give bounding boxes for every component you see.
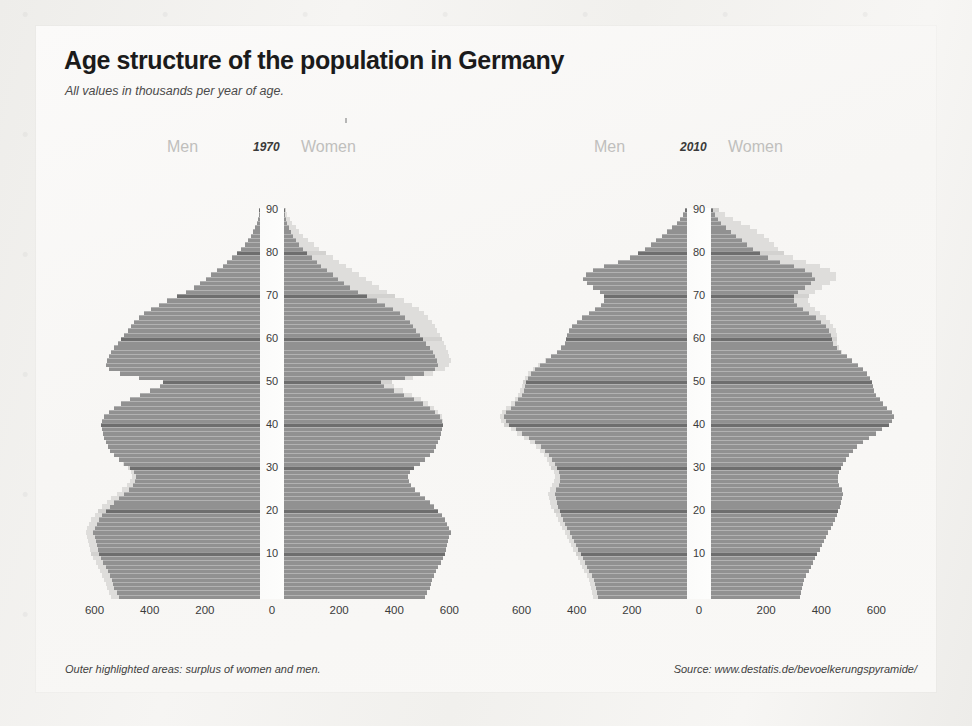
bar-men: [134, 470, 260, 474]
bar-women: [711, 303, 797, 307]
bar-men: [585, 560, 687, 564]
bar-women: [284, 487, 415, 491]
x-axis-tick-1: 400: [567, 604, 586, 616]
bar-women: [284, 345, 430, 349]
bar-women: [284, 229, 291, 233]
x-axis-tick-6: 600: [440, 604, 459, 616]
bar-men: [106, 440, 260, 444]
bar-women: [284, 500, 430, 504]
bar-men: [128, 328, 260, 332]
bar-women: [711, 311, 809, 315]
bar-women: [284, 462, 420, 466]
bar-women: [711, 242, 747, 246]
bar-women: [711, 328, 829, 332]
bar-women: [711, 345, 837, 349]
bar-men: [124, 333, 260, 337]
bar-women: [284, 595, 425, 599]
bar-men: [630, 255, 687, 259]
bar-women: [284, 358, 437, 362]
bar-women: [284, 492, 420, 496]
bar-men: [96, 539, 260, 543]
x-axis-tick-4: 200: [757, 604, 776, 616]
bar-men: [528, 376, 687, 380]
bar-women: [284, 586, 430, 590]
bar-men: [535, 367, 687, 371]
bar-men: [586, 272, 687, 276]
bar-women: [284, 212, 285, 216]
bar-men: [101, 556, 260, 560]
bar-women: [284, 440, 438, 444]
bar-men: [121, 337, 260, 341]
bar-men: [160, 384, 260, 388]
bar-men: [557, 350, 687, 354]
bar-women: [711, 393, 876, 397]
bar-women: [711, 535, 826, 539]
bar-women: [711, 556, 815, 560]
bar-men: [604, 294, 687, 298]
bar-men: [563, 517, 687, 521]
bar-women: [284, 397, 414, 401]
plot-area-1970: 102030405060708090: [55, 208, 485, 599]
bar-women: [284, 436, 440, 440]
bar-women: [284, 272, 333, 276]
bar-women: [284, 208, 285, 212]
bar-women: [284, 560, 441, 564]
y-axis-tick-80: 80: [687, 246, 711, 258]
bar-women: [284, 290, 358, 294]
bar-men: [524, 388, 687, 392]
bar-men: [618, 260, 687, 264]
bar-women: [284, 419, 442, 423]
bar-women: [711, 509, 838, 513]
bar-women: [711, 350, 841, 354]
bar-men: [232, 255, 260, 259]
bar-men: [518, 397, 687, 401]
bar-women: [284, 552, 445, 556]
bar-women: [284, 371, 424, 375]
bar-women: [284, 255, 312, 259]
bar-women: [711, 573, 806, 577]
bar-men: [604, 298, 687, 302]
bar-women: [711, 530, 828, 534]
bar-women: [711, 492, 843, 496]
bar-men: [526, 380, 687, 384]
bar-men: [515, 401, 687, 405]
bar-men: [167, 298, 260, 302]
bar-women: [284, 354, 435, 358]
bar-women: [711, 397, 880, 401]
bar-men: [129, 487, 260, 491]
bar-women: [711, 221, 721, 225]
bar-men: [551, 354, 687, 358]
bar-men: [578, 547, 687, 551]
bar-women: [284, 217, 286, 221]
bar-men: [121, 401, 260, 405]
bar-men: [576, 543, 687, 547]
bar-women: [284, 268, 327, 272]
y-axis-tick-70: 70: [687, 289, 711, 301]
bar-men: [102, 427, 260, 431]
bar-women: [284, 522, 447, 526]
bar-men: [595, 582, 687, 586]
bar-women: [284, 423, 443, 427]
bar-men: [200, 281, 260, 285]
bar-women: [711, 401, 883, 405]
bar-men: [593, 285, 687, 289]
bar-men: [159, 303, 260, 307]
y-axis-tick-80: 80: [260, 246, 284, 258]
bar-women: [711, 247, 753, 251]
bar-women: [711, 470, 839, 474]
bar-men: [139, 376, 260, 380]
bar-women: [284, 466, 414, 470]
source-label: Source: www.destatis.de/bevoelkerungspyr…: [674, 663, 917, 675]
bar-women: [711, 277, 815, 281]
bar-men: [589, 311, 687, 315]
bar-women: [711, 440, 863, 444]
bar-men: [583, 277, 687, 281]
bar-women: [284, 543, 447, 547]
bar-women: [284, 277, 338, 281]
bar-men: [677, 221, 687, 225]
bar-women: [284, 294, 367, 298]
bar-men: [107, 358, 260, 362]
bar-women: [711, 380, 872, 384]
bar-women: [284, 504, 434, 508]
bar-women: [284, 414, 440, 418]
